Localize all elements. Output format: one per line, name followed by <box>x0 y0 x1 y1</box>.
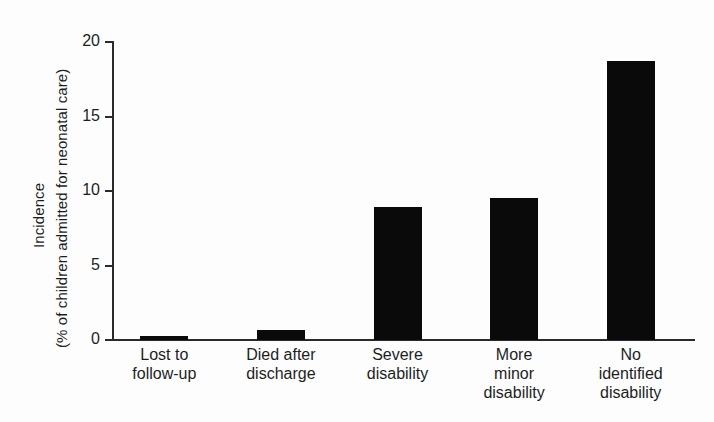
x-axis-label-line: Lost to <box>106 345 223 364</box>
y-tick-label-wrap: 20 <box>60 33 100 49</box>
x-axis-label-line: identified <box>572 364 689 383</box>
y-tick-label-wrap: 15 <box>60 108 100 124</box>
x-axis-label-line: disability <box>456 383 573 402</box>
y-tick-label: 15 <box>66 108 100 124</box>
x-axis-label-line: follow-up <box>106 364 223 383</box>
x-axis-label: Noidentifieddisability <box>572 345 689 402</box>
x-axis-label-line: No <box>572 345 689 364</box>
y-tick-label-wrap: 10 <box>60 182 100 198</box>
bar <box>374 207 422 340</box>
y-tick-mark <box>105 116 112 118</box>
x-axis-label: Severedisability <box>339 345 456 383</box>
y-tick-label: 0 <box>66 331 100 347</box>
x-axis-label: Died afterdischarge <box>223 345 340 383</box>
bar <box>490 198 538 340</box>
y-tick-mark <box>105 339 112 341</box>
x-axis-label: Moreminordisability <box>456 345 573 402</box>
x-axis-label-line: discharge <box>223 364 340 383</box>
y-tick-mark <box>105 190 112 192</box>
bar-chart: Incidence (% of children admitted for ne… <box>0 0 714 422</box>
x-axis-label-line: minor <box>456 364 573 383</box>
y-tick-mark <box>105 265 112 267</box>
y-tick-label: 5 <box>66 257 100 273</box>
bars-layer <box>112 42 695 340</box>
x-axis-label-line: Severe <box>339 345 456 364</box>
y-tick-mark <box>105 41 112 43</box>
y-tick-label-wrap: 5 <box>60 257 100 273</box>
y-tick-label-wrap: 0 <box>60 331 100 347</box>
y-tick-label: 20 <box>66 33 100 49</box>
y-axis-title-line-1: Incidence <box>30 183 47 248</box>
x-axis-label-line: More <box>456 345 573 364</box>
x-axis-label: Lost tofollow-up <box>106 345 223 383</box>
x-axis-label-line: Died after <box>223 345 340 364</box>
bar <box>140 336 188 340</box>
y-tick-label: 10 <box>66 182 100 198</box>
bar <box>257 330 305 340</box>
x-axis-label-line: disability <box>339 364 456 383</box>
x-axis-label-line: disability <box>572 383 689 402</box>
bar <box>607 61 655 340</box>
x-axis-labels: Lost tofollow-upDied afterdischargeSever… <box>112 345 695 420</box>
